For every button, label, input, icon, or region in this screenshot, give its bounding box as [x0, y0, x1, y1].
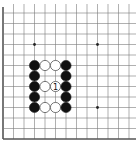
white-stone	[40, 60, 50, 70]
black-stone	[61, 102, 71, 112]
black-stone	[29, 60, 39, 70]
black-stone	[61, 92, 71, 102]
move-number-label: 1	[53, 83, 58, 92]
board-grid	[3, 4, 136, 139]
black-stone	[61, 81, 71, 91]
white-stone: 1	[50, 81, 60, 91]
black-stone	[29, 102, 39, 112]
black-stone	[61, 71, 71, 81]
black-stone	[29, 81, 39, 91]
black-stone	[61, 60, 71, 70]
white-stone	[50, 60, 60, 70]
black-stone	[29, 71, 39, 81]
white-stone	[40, 102, 50, 112]
star-point	[33, 43, 36, 46]
white-stone	[40, 81, 50, 91]
black-stone	[29, 92, 39, 102]
go-board: 1	[0, 0, 138, 143]
star-point	[96, 43, 99, 46]
white-stone	[50, 102, 60, 112]
star-point	[96, 106, 99, 109]
stones: 1	[29, 60, 71, 112]
